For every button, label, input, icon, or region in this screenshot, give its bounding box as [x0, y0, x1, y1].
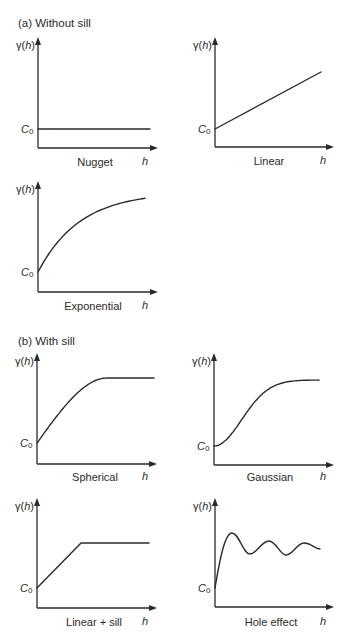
y-axis-label: γ(h)	[193, 500, 212, 512]
y-axis-label: γ(h)	[16, 183, 35, 195]
nugget-c0-label: C0	[20, 437, 33, 450]
y-axis-label: γ(h)	[16, 39, 35, 51]
y-axis-label: γ(h)	[193, 39, 212, 51]
x-axis-label: h	[142, 155, 148, 167]
model-name-label: Spherical	[72, 471, 118, 483]
model-name-label: Linear + sill	[66, 616, 122, 628]
x-axis-arrow-icon	[326, 144, 334, 150]
hole-effect-curve	[215, 533, 320, 588]
x-axis-arrow-icon	[326, 604, 334, 610]
x-axis-arrow-icon	[149, 605, 157, 611]
x-axis-label: h	[320, 615, 326, 627]
y-axis-arrow-icon	[35, 37, 41, 45]
x-axis-arrow-icon	[150, 289, 158, 295]
panel-linear: γ(h)C0Linearh	[193, 37, 334, 167]
y-axis-arrow-icon	[35, 181, 41, 189]
x-axis-label: h	[320, 470, 326, 482]
y-axis-arrow-icon	[212, 37, 218, 45]
nugget-c0-label: C0	[21, 266, 34, 279]
variogram-models-figure: (a) Without sill (b) With sill γ(h)C0Nug…	[0, 0, 350, 643]
panel-linear-sill: γ(h)C0Linear + sillh	[15, 498, 157, 628]
gaussian-curve	[214, 380, 319, 446]
y-axis-arrow-icon	[212, 498, 218, 506]
x-axis-arrow-icon	[326, 462, 334, 468]
panels-group: γ(h)C0Nuggethγ(h)C0Linearhγ(h)C0Exponent…	[15, 37, 334, 628]
linear-sill-curve	[37, 543, 149, 588]
y-axis-label: γ(h)	[15, 355, 34, 367]
exponential-curve	[38, 198, 145, 272]
y-axis-label: γ(h)	[15, 500, 34, 512]
nugget-c0-label: C0	[198, 123, 211, 136]
y-axis-arrow-icon	[34, 353, 40, 361]
x-axis-label: h	[142, 470, 148, 482]
model-name-label: Gaussian	[247, 471, 293, 483]
model-name-label: Exponential	[64, 300, 122, 312]
x-axis-label: h	[142, 299, 148, 311]
model-name-label: Hole effect	[245, 616, 297, 628]
section-title-without-sill: (a) Without sill	[18, 17, 91, 29]
model-name-label: Nugget	[77, 156, 112, 168]
y-axis-label: γ(h)	[192, 355, 211, 367]
section-title-with-sill: (b) With sill	[18, 335, 75, 347]
model-name-label: Linear	[254, 155, 285, 167]
panel-exponential: γ(h)C0Exponentialh	[16, 181, 158, 312]
nugget-c0-label: C0	[198, 582, 211, 595]
panel-nugget: γ(h)C0Nuggeth	[16, 37, 158, 168]
nugget-c0-label: C0	[197, 440, 210, 453]
x-axis-arrow-icon	[149, 461, 157, 467]
spherical-curve	[37, 378, 154, 443]
nugget-c0-label: C0	[20, 582, 33, 595]
x-axis-label: h	[320, 154, 326, 166]
panel-spherical: γ(h)C0Sphericalh	[15, 353, 157, 483]
y-axis-arrow-icon	[34, 498, 40, 506]
panel-hole-effect: γ(h)C0Hole effecth	[193, 498, 334, 628]
linear-curve	[215, 72, 321, 129]
y-axis-arrow-icon	[211, 353, 217, 361]
nugget-c0-label: C0	[21, 123, 34, 136]
panel-gaussian: γ(h)C0Gaussianh	[192, 353, 334, 483]
x-axis-label: h	[142, 615, 148, 627]
x-axis-arrow-icon	[150, 145, 158, 151]
